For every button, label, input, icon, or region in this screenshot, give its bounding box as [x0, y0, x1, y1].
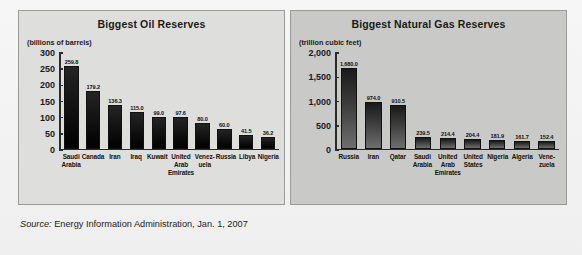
- bar[interactable]: [173, 117, 187, 148]
- bar[interactable]: [390, 105, 406, 148]
- bar-value-label: 214.4: [441, 131, 455, 137]
- bar-slot: 41.5: [235, 53, 257, 149]
- source-note: Source: Energy Information Administratio…: [20, 219, 248, 229]
- y-axis-tick: 0: [326, 145, 335, 155]
- bar-value-label: 161.7: [515, 134, 529, 140]
- bar-slot: 99.0: [148, 53, 170, 149]
- category-label: UnitedStates: [461, 153, 486, 169]
- category-label: Algeria: [510, 153, 535, 161]
- y-axis-tick: 500: [316, 121, 335, 131]
- bar-value-label: 152.4: [540, 134, 554, 140]
- bar[interactable]: [239, 135, 253, 148]
- bar-slot: 97.6: [170, 53, 192, 149]
- bar-slot: 60.0: [213, 53, 235, 149]
- category-label-group-oil: SaudiArabiaCanadaIranIraqKuwaitUnitedAra…: [61, 150, 280, 177]
- category-label: Iran: [361, 153, 386, 161]
- bar-group-gas: 1,680.0974.0910.5239.5214.4204.4181.9161…: [337, 53, 560, 149]
- bar[interactable]: [86, 91, 100, 148]
- category-label: UnitedArabEmirates: [168, 153, 194, 177]
- category-label: Vene-zuela: [534, 153, 559, 169]
- bar-value-label: 115.0: [130, 105, 143, 111]
- bar-value-label: 36.2: [263, 130, 274, 136]
- category-label: Iraq: [125, 153, 146, 161]
- category-label: Libya: [237, 153, 258, 161]
- category-label: Russia: [337, 153, 362, 161]
- category-label: Venez-uela: [194, 153, 215, 169]
- chart-title-gas: Biggest Natural Gas Reserves: [291, 18, 566, 30]
- category-label: Iran: [104, 153, 125, 161]
- bar-slot: 115.0: [126, 53, 148, 149]
- bar-slot: 136.3: [104, 53, 126, 149]
- bar-value-label: 181.9: [490, 133, 504, 139]
- bar[interactable]: [152, 117, 166, 149]
- category-label: Nigeria: [485, 153, 510, 161]
- chart-panel-gas: Biggest Natural Gas Reserves (trillion c…: [290, 10, 567, 205]
- bar-value-label: 204.4: [466, 132, 480, 138]
- bar-value-label: 136.3: [108, 98, 122, 104]
- chart-title-oil: Biggest Oil Reserves: [19, 18, 284, 30]
- bar[interactable]: [489, 140, 505, 149]
- bar-slot: 181.9: [485, 53, 510, 149]
- category-label: Kuwait: [147, 153, 168, 161]
- bar[interactable]: [64, 66, 78, 149]
- y-axis-tick: 100: [40, 113, 59, 123]
- bar-slot: 1,680.0: [337, 53, 362, 149]
- bar-slot: 239.5: [411, 53, 436, 149]
- bar-value-label: 80.0: [197, 116, 208, 122]
- plot-area-oil: 300250200150100500 259.8179.2136.3115.09…: [59, 53, 279, 150]
- axis-unit-oil: (billions of barrels): [27, 38, 92, 47]
- y-axis-tick: 200: [40, 80, 59, 90]
- bar-value-label: 41.5: [241, 128, 252, 134]
- bar[interactable]: [130, 112, 144, 149]
- bar-slot: 974.0: [361, 53, 386, 149]
- bar-slot: 259.8: [61, 53, 83, 149]
- bar-slot: 179.2: [82, 53, 104, 149]
- axis-unit-gas: (trillion cubic feet): [299, 38, 361, 47]
- bar-slot: 910.5: [386, 53, 411, 149]
- bar[interactable]: [217, 129, 231, 148]
- bar[interactable]: [365, 102, 381, 149]
- y-axis-tick: 1,000: [308, 97, 335, 107]
- bar[interactable]: [464, 139, 480, 149]
- bar-value-label: 910.5: [392, 98, 406, 104]
- bar-value-label: 259.8: [65, 59, 79, 65]
- y-axis-tick: 1,500: [308, 72, 335, 82]
- category-label: UnitedArabEmirates: [435, 153, 461, 177]
- bar-slot: 80.0: [192, 53, 214, 149]
- category-label: SaudiArabia: [410, 153, 435, 169]
- chart-panel-oil: Biggest Oil Reserves (billions of barrel…: [18, 10, 285, 205]
- category-label: Canada: [82, 153, 105, 161]
- source-label: Source:: [20, 219, 52, 229]
- y-axis-tick: 2,000: [308, 48, 335, 58]
- bar[interactable]: [415, 137, 431, 148]
- bar-value-label: 179.2: [87, 84, 101, 90]
- category-label-group-gas: RussiaIranQatarSaudiArabiaUnitedArabEmir…: [337, 150, 560, 177]
- bar[interactable]: [514, 141, 530, 149]
- figure-container: Biggest Oil Reserves (billions of barrel…: [0, 0, 582, 255]
- bar-slot: 36.2: [257, 53, 279, 149]
- source-text: Energy Information Administration, Jan. …: [54, 219, 248, 229]
- category-label: SaudiArabia: [61, 153, 82, 169]
- bar[interactable]: [261, 137, 275, 149]
- bar[interactable]: [108, 105, 122, 148]
- plot-area-gas: 2,0001,5001,0005000 1,680.0974.0910.5239…: [335, 53, 559, 150]
- bar-value-label: 239.5: [416, 130, 430, 136]
- y-axis-tick: 300: [40, 48, 59, 58]
- bar-slot: 214.4: [435, 53, 460, 149]
- bar-value-label: 97.6: [175, 110, 186, 116]
- category-label: Russia: [215, 153, 236, 161]
- y-axis-tick: 150: [40, 97, 59, 107]
- y-axis-tick: 50: [45, 129, 59, 139]
- bar-value-label: 60.0: [219, 122, 230, 128]
- bar[interactable]: [195, 123, 209, 148]
- y-axis-tick: 250: [40, 64, 59, 74]
- category-label: Qatar: [386, 153, 411, 161]
- bar[interactable]: [538, 141, 554, 148]
- y-axis-tick: 0: [50, 145, 59, 155]
- bar-value-label: 974.0: [367, 95, 381, 101]
- bar-slot: 152.4: [534, 53, 559, 149]
- bar[interactable]: [440, 138, 456, 148]
- bar-slot: 204.4: [460, 53, 485, 149]
- bar[interactable]: [341, 68, 357, 148]
- bar-value-label: 1,680.0: [340, 61, 358, 67]
